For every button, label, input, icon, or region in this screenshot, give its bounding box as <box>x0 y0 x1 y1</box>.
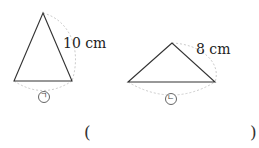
side-label-a: 10 cm <box>63 36 106 50</box>
dashed-arc-base <box>14 81 72 91</box>
marker-b: ㄴ <box>167 94 174 102</box>
answer-open-paren: ( <box>84 124 91 141</box>
answer-blank[interactable] <box>95 124 245 142</box>
marker-a: ㄱ <box>40 92 47 100</box>
answer-close-paren: ) <box>250 124 257 141</box>
triangle-a <box>14 13 75 103</box>
side-label-b: 8 cm <box>196 42 230 56</box>
